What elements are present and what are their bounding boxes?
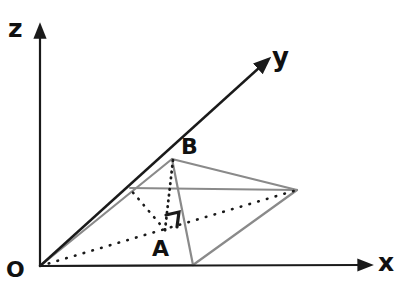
x-axis-line [40,265,360,266]
edge-B-to-right-vertex [172,159,297,190]
point-b-label: B [181,136,198,158]
origin-label: O [6,259,25,281]
z-axis-label: z [8,16,23,41]
geometry-figure: z y x O A B [0,0,401,288]
edge-horizontal-midline [130,188,297,190]
y-axis-label: y [272,44,289,70]
point-a-label: A [152,238,169,260]
edge-base-vertex-to-right-vertex [193,190,297,265]
x-axis-label: x [378,250,394,275]
dotted-edge-A-to-left-vertex [130,189,165,230]
axes-group [40,36,360,266]
figure-canvas [0,0,401,288]
y-axis-line [40,67,260,266]
right-angle-marker [166,212,179,227]
dotted-edge-A-to-B [165,160,173,230]
